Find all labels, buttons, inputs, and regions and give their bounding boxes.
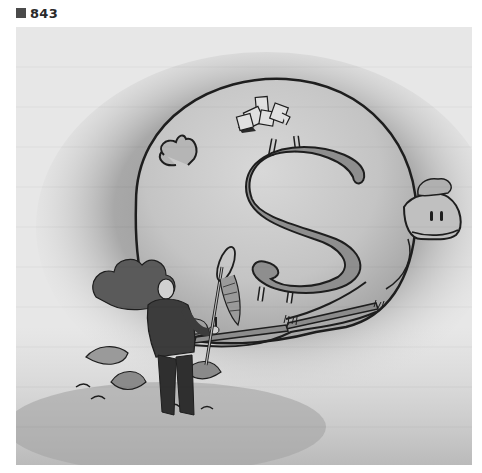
figure-label: 843	[16, 6, 58, 20]
illustration-frame	[16, 27, 472, 465]
figure-number: 843	[30, 6, 58, 21]
square-bullet-icon	[16, 8, 26, 18]
piggy-bank-illustration	[16, 27, 472, 465]
